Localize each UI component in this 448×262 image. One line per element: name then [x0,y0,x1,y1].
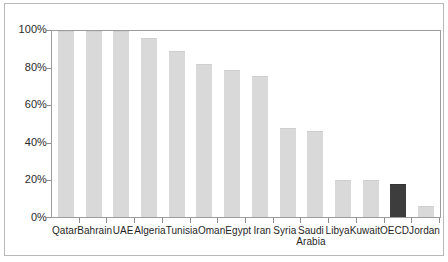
x-axis-tick-label: UAE [112,225,134,257]
bar-slot [163,31,191,217]
x-axis-tick-label: Egypt [225,225,251,257]
bar[interactable] [141,38,157,217]
x-axis-tick-slot [301,218,329,223]
x-axis-tick-label: Jordan [409,225,440,257]
x-axis-tick-slot [274,218,302,223]
bar[interactable] [335,180,351,217]
bar[interactable] [86,31,102,217]
y-axis-tick-label: 100% [11,23,47,36]
bar-slot [301,31,329,217]
bar[interactable] [252,76,268,217]
bar[interactable] [224,70,240,217]
bar-slot [218,31,246,217]
x-axis-tick-slot [385,218,413,223]
x-axis-tick-slot [357,218,385,223]
x-axis-tick-label: Saudi Arabia [296,225,325,257]
bar-slot [52,31,80,217]
x-axis-tick-label: Bahrain [77,225,112,257]
bar[interactable] [58,31,74,217]
y-axis-tick-label: 20% [11,173,47,186]
y-axis-tick-label: 80% [11,61,47,74]
x-axis-tick-label: Algeria [134,225,165,257]
bar-slot [357,31,385,217]
x-axis-tick-slot [246,218,274,223]
bar[interactable] [280,128,296,217]
x-axis-tick-slot [135,218,163,223]
bar-slot [274,31,302,217]
bar-slot [135,31,163,217]
figure-frame: 100% 80% 60% 40% 20% 0% QatarBahrainUAEA… [4,3,444,256]
bar[interactable] [307,131,323,217]
x-axis-tick-slot [107,218,135,223]
x-axis-tick [439,218,440,223]
x-axis-tick-slot [218,218,246,223]
x-axis-tick-slot [163,218,191,223]
x-axis-tick-slot [52,218,80,223]
x-axis-ticks [52,218,440,223]
bar-slot [246,31,274,217]
chart-figure: 100% 80% 60% 40% 20% 0% QatarBahrainUAEA… [0,0,448,262]
x-axis-tick-slot [191,218,219,223]
bar[interactable] [390,184,406,217]
bar-slot [80,31,108,217]
bar-slot [107,31,135,217]
bar[interactable] [196,64,212,217]
y-axis-tick-label: 40% [11,136,47,149]
x-axis-tick-label: Qatar [52,225,77,257]
bar-slot [191,31,219,217]
bar[interactable] [418,206,434,217]
x-axis-tick-label: Tunisia [166,225,198,257]
bar-series [52,31,440,217]
bar-slot [329,31,357,217]
y-axis-tick-label: 0% [11,211,47,224]
x-axis-tick-slot [80,218,108,223]
x-axis-tick-label: Iran [251,225,273,257]
x-axis-labels: QatarBahrainUAEAlgeriaTunisiaOmanEgyptIr… [52,225,440,257]
x-axis-tick-label: Oman [198,225,225,257]
x-axis-tick-slot [329,218,357,223]
bar[interactable] [363,180,379,217]
x-axis-tick-label: Libya [326,225,350,257]
x-axis-tick-slot [412,218,440,223]
x-axis-tick-label: Syria [273,225,296,257]
y-axis-labels: 100% 80% 60% 40% 20% 0% [11,23,47,225]
y-axis-tick-label: 60% [11,98,47,111]
bar-slot [412,31,440,217]
bar-slot [385,31,413,217]
x-axis-tick-label: Kuwait [350,225,380,257]
bar[interactable] [169,51,185,217]
bar[interactable] [113,31,129,217]
x-axis-tick-label: OECD [380,225,409,257]
